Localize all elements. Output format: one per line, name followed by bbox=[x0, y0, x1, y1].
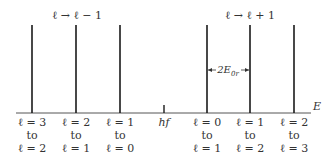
arrowhead-left-icon bbox=[208, 68, 212, 72]
group-label-decrease-text: ℓ → ℓ − 1 bbox=[52, 9, 102, 22]
group-label-increase: ℓ → ℓ + 1 bbox=[225, 9, 275, 22]
transition-from: ℓ = 2 bbox=[280, 117, 308, 128]
transition-from: ℓ = 3 bbox=[18, 117, 46, 128]
transition-from: ℓ = 2 bbox=[62, 117, 90, 128]
transition-from: ℓ = 0 bbox=[193, 117, 221, 128]
transition-label-1: ℓ = 3 to ℓ = 2 bbox=[18, 117, 46, 154]
arrowhead-right-icon bbox=[245, 68, 249, 72]
transition-to: ℓ = 1 bbox=[62, 143, 90, 154]
dimension-base: 2E bbox=[217, 64, 231, 75]
dimension-label: 2E0r bbox=[216, 64, 239, 78]
hf-label-text: hf bbox=[158, 116, 169, 129]
transition-to-word: to bbox=[70, 130, 81, 141]
energy-axis-label: E bbox=[313, 100, 321, 113]
transition-label-4: ℓ = 0 to ℓ = 1 bbox=[193, 117, 221, 154]
transition-to-word: to bbox=[201, 130, 212, 141]
transition-to-word: to bbox=[114, 130, 125, 141]
transition-label-5: ℓ = 1 to ℓ = 2 bbox=[236, 117, 264, 154]
transition-from: ℓ = 1 bbox=[236, 117, 264, 128]
hf-label: hf bbox=[158, 117, 169, 128]
transition-to: ℓ = 0 bbox=[106, 143, 134, 154]
transition-to: ℓ = 1 bbox=[193, 143, 221, 154]
group-label-increase-text: ℓ → ℓ + 1 bbox=[225, 9, 275, 22]
transition-to-word: to bbox=[288, 130, 299, 141]
transition-label-6: ℓ = 2 to ℓ = 3 bbox=[280, 117, 308, 154]
transition-label-2: ℓ = 2 to ℓ = 1 bbox=[62, 117, 90, 154]
transition-label-3: ℓ = 1 to ℓ = 0 bbox=[106, 117, 134, 154]
transition-to-word: to bbox=[26, 130, 37, 141]
transition-to-word: to bbox=[244, 130, 255, 141]
transition-to: ℓ = 2 bbox=[18, 143, 46, 154]
dimension-subscript: 0r bbox=[231, 70, 239, 78]
transition-to: ℓ = 3 bbox=[280, 143, 308, 154]
transition-to: ℓ = 2 bbox=[236, 143, 264, 154]
transition-from: ℓ = 1 bbox=[106, 117, 134, 128]
group-label-decrease: ℓ → ℓ − 1 bbox=[52, 9, 102, 22]
